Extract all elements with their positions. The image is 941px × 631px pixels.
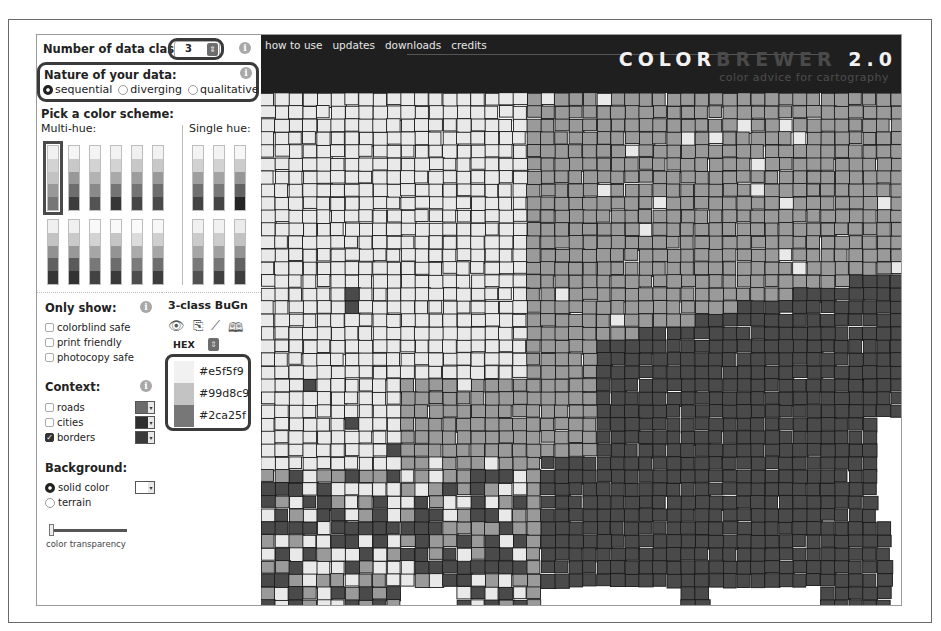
county-region[interactable] [598,171,612,183]
county-region[interactable] [737,184,750,196]
county-region[interactable] [723,119,738,131]
county-region[interactable] [724,574,737,588]
county-region[interactable] [863,431,877,444]
palette-color-swatch[interactable] [174,361,194,383]
county-region[interactable] [709,275,722,288]
county-region[interactable] [751,184,766,196]
county-region[interactable] [486,405,500,419]
county-region[interactable] [709,249,724,262]
county-region[interactable] [261,223,275,236]
color-format-label[interactable]: HEX [173,339,195,350]
county-region[interactable] [835,223,848,235]
county-region[interactable] [443,249,456,262]
county-region[interactable] [723,158,738,171]
county-region[interactable] [443,470,456,483]
county-region[interactable] [722,145,736,157]
county-region[interactable] [821,275,835,289]
county-region[interactable] [359,470,374,482]
county-region[interactable] [513,431,526,444]
county-region[interactable] [541,119,554,133]
county-region[interactable] [499,470,513,483]
county-region[interactable] [388,535,401,548]
county-region[interactable] [358,522,373,536]
county-region[interactable] [289,418,303,431]
county-region[interactable] [555,418,570,430]
county-region[interactable] [331,431,345,444]
transparency-slider[interactable] [51,529,127,532]
county-region[interactable] [765,301,780,314]
county-region[interactable] [485,132,499,146]
county-region[interactable] [625,262,638,275]
county-region[interactable] [751,483,764,497]
county-region[interactable] [653,262,666,276]
county-region[interactable] [513,561,528,575]
county-region[interactable] [793,418,807,431]
county-region[interactable] [737,574,750,587]
county-region[interactable] [849,262,863,275]
county-region[interactable] [485,288,498,300]
county-region[interactable] [611,418,625,432]
county-region[interactable] [723,171,738,184]
county-region[interactable] [555,171,568,183]
county-region[interactable] [751,522,764,536]
county-region[interactable] [457,340,472,352]
county-region[interactable] [359,574,372,588]
county-region[interactable] [443,548,456,560]
county-region[interactable] [667,353,681,365]
county-region[interactable] [471,106,486,120]
county-region[interactable] [710,158,724,171]
county-region[interactable] [555,275,569,287]
county-region[interactable] [359,327,372,341]
county-region[interactable] [485,262,500,274]
county-region[interactable] [806,301,820,313]
county-region[interactable] [303,561,318,575]
county-region[interactable] [498,327,512,340]
county-region[interactable] [527,392,541,405]
county-region[interactable] [457,301,470,313]
county-region[interactable] [471,392,484,406]
county-region[interactable] [429,431,444,445]
county-region[interactable] [275,327,289,339]
county-region[interactable] [737,106,752,120]
county-region[interactable] [457,444,470,456]
county-region[interactable] [779,184,794,198]
county-region[interactable] [401,262,415,276]
county-region[interactable] [289,522,304,534]
county-region[interactable] [485,548,500,562]
county-region[interactable] [303,145,317,158]
county-region[interactable] [583,197,598,211]
county-region[interactable] [723,327,738,340]
county-region[interactable] [485,483,499,497]
county-region[interactable] [303,444,318,458]
county-region[interactable] [681,93,695,105]
county-region[interactable] [513,197,526,209]
county-region[interactable] [723,236,738,249]
county-region[interactable] [485,470,499,484]
county-region[interactable] [527,600,541,606]
county-region[interactable] [681,600,696,606]
county-region[interactable] [625,93,640,107]
county-region[interactable] [527,145,541,157]
county-region[interactable] [653,457,667,469]
county-region[interactable] [653,93,666,107]
county-region[interactable] [891,158,902,171]
county-region[interactable] [751,93,765,105]
county-region[interactable] [527,509,541,523]
county-region[interactable] [709,184,723,197]
clipboard-icon[interactable]: ⎘ [193,318,203,340]
county-region[interactable] [289,106,303,119]
county-region[interactable] [274,574,288,588]
county-region[interactable] [863,145,876,159]
county-region[interactable] [317,366,332,380]
county-region[interactable] [891,405,902,417]
county-region[interactable] [779,106,792,118]
county-region[interactable] [723,262,736,275]
county-region[interactable] [710,574,725,587]
county-region[interactable] [471,236,484,250]
county-region[interactable] [457,171,471,185]
county-region[interactable] [891,236,902,249]
county-region[interactable] [401,522,416,535]
county-region[interactable] [863,379,876,392]
county-region[interactable] [569,535,583,549]
county-region[interactable] [863,171,878,185]
